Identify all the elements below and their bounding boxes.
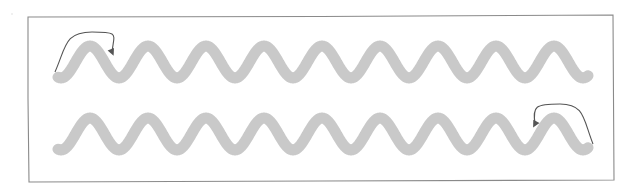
worksheet-frame [28,15,614,182]
wavy-line-row-1 [58,46,588,78]
wavy-line-row-2 [58,118,588,150]
tracing-worksheet [0,0,637,192]
stray-dot [11,13,13,15]
